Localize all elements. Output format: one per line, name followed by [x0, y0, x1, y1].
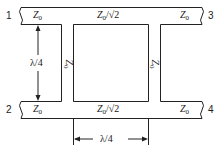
- right-shunt-impedance-label: Z0: [148, 59, 160, 68]
- port-4-label: 4: [208, 105, 214, 115]
- port3-break: [201, 8, 204, 25]
- port-2-label: 2: [6, 105, 12, 115]
- port4-break: [201, 102, 204, 119]
- port1-impedance-label: Z0: [33, 10, 42, 22]
- left-shunt-impedance-label: Z0: [62, 59, 74, 68]
- horizontal-quarter-wave-label: λ/4: [100, 134, 113, 144]
- port-1-label: 1: [6, 11, 12, 21]
- vertical-quarter-wave-label: λ/4: [30, 58, 43, 68]
- arrow-left-icon: [74, 137, 80, 142]
- branch-line-coupler-diagram: 1 2 3 4 Z0 Z0 Z0 Z0 Z0/√2 Z0/√2 Z0 Z0 λ/…: [0, 0, 222, 149]
- coupler-outline: [0, 0, 222, 149]
- port1-break: [20, 8, 23, 25]
- port2-break: [20, 102, 23, 119]
- right-stub-outline: [161, 25, 203, 102]
- bottom-series-impedance-label: Z0/√2: [97, 104, 119, 116]
- port3-impedance-label: Z0: [180, 10, 189, 22]
- port2-impedance-label: Z0: [33, 104, 42, 116]
- arrow-up-icon: [36, 25, 41, 31]
- top-series-impedance-label: Z0/√2: [97, 10, 119, 22]
- arrow-down-icon: [36, 95, 41, 101]
- port-3-label: 3: [208, 11, 214, 21]
- port4-impedance-label: Z0: [180, 104, 189, 116]
- center-window: [74, 25, 149, 102]
- arrow-right-icon: [142, 137, 148, 142]
